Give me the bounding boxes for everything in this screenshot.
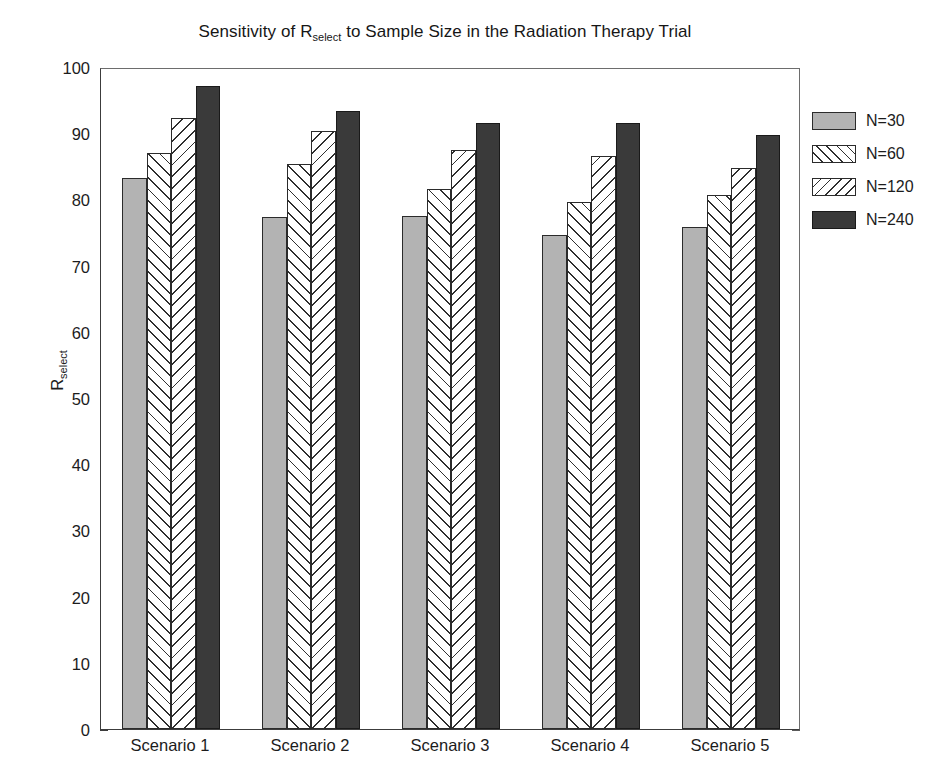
legend-label: N=60: [866, 145, 905, 163]
x-tick-label: Scenario 3: [380, 736, 520, 755]
bar: [402, 216, 427, 729]
x-tick-label: Scenario 4: [520, 736, 660, 755]
bar: [311, 131, 336, 729]
y-tick-label: 90: [46, 125, 90, 144]
chart-title-subscript: select: [313, 31, 342, 43]
y-tick-label: 20: [46, 588, 90, 607]
bar: [542, 235, 567, 729]
bar: [567, 202, 592, 729]
bar: [287, 164, 312, 729]
bar: [122, 178, 147, 729]
legend-label: N=120: [866, 178, 914, 196]
y-axis-tick-labels: 0102030405060708090100: [44, 68, 90, 730]
legend-item: N=240: [812, 209, 930, 231]
y-tick-label: 100: [46, 59, 90, 78]
legend-item: N=120: [812, 176, 930, 198]
bar: [427, 189, 452, 729]
y-tick-label: 70: [46, 257, 90, 276]
bar: [336, 111, 361, 729]
y-tick-label: 30: [46, 522, 90, 541]
chart-title-part-1: Sensitivity of R: [199, 22, 313, 41]
bar: [147, 153, 172, 729]
bar: [262, 217, 287, 729]
bar: [591, 156, 616, 729]
chart-title: Sensitivity of Rselect to Sample Size in…: [0, 22, 890, 43]
bar: [682, 227, 707, 729]
bar: [196, 86, 221, 729]
legend-swatch: [812, 112, 856, 130]
legend-item: N=30: [812, 110, 930, 132]
x-tick-label: Scenario 5: [660, 736, 800, 755]
plot-area: [100, 68, 800, 730]
bar: [476, 123, 501, 729]
legend-swatch: [812, 178, 856, 196]
bar: [756, 135, 781, 729]
y-tick-label: 50: [46, 390, 90, 409]
y-tick-label: 0: [46, 721, 90, 740]
bar: [616, 123, 641, 729]
y-tick-label: 60: [46, 323, 90, 342]
x-axis-tick-labels: Scenario 1Scenario 2Scenario 3Scenario 4…: [100, 736, 800, 764]
x-tick-label: Scenario 2: [240, 736, 380, 755]
legend-label: N=240: [866, 211, 914, 229]
chart-title-part-2: to Sample Size in the Radiation Therapy …: [341, 22, 691, 41]
y-tick-label: 10: [46, 654, 90, 673]
bar: [731, 168, 756, 729]
x-tick-label: Scenario 1: [100, 736, 240, 755]
bar: [707, 195, 732, 729]
y-tick-mark: [100, 730, 108, 731]
chart-figure: Sensitivity of Rselect to Sample Size in…: [0, 0, 939, 772]
bar: [171, 118, 196, 729]
bars-layer: [101, 69, 799, 729]
legend-label: N=30: [866, 112, 905, 130]
bar: [451, 150, 476, 729]
legend: N=30N=60N=120N=240: [812, 110, 930, 242]
y-tick-label: 40: [46, 456, 90, 475]
legend-swatch: [812, 211, 856, 229]
y-tick-label: 80: [46, 191, 90, 210]
y-tick-mark-right: [792, 730, 800, 731]
legend-item: N=60: [812, 143, 930, 165]
legend-swatch: [812, 145, 856, 163]
